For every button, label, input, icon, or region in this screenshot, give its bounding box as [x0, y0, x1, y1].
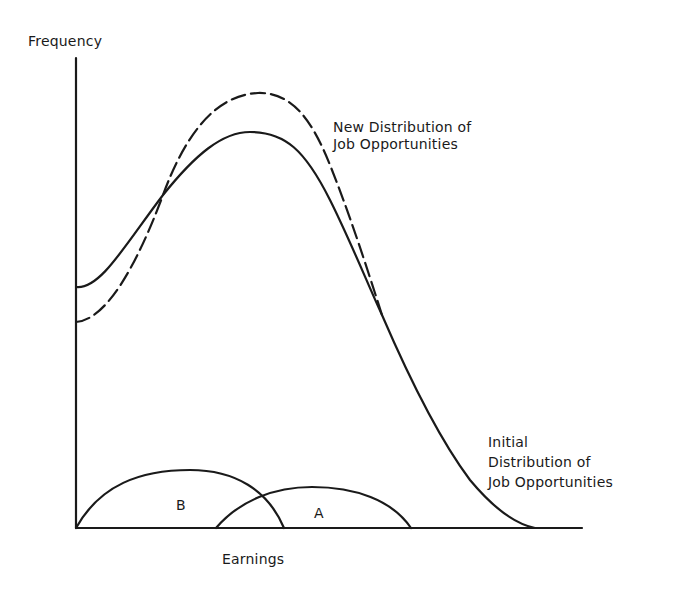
diagram-canvas [0, 0, 674, 597]
initial-distribution-label-line1: Initial [488, 432, 613, 452]
initial-distribution-label-line3: Job Opportunities [488, 472, 613, 492]
initial-distribution-label-line2: Distribution of [488, 452, 613, 472]
arc-b-label: B [176, 497, 186, 514]
initial-distribution-curve [76, 132, 535, 528]
new-distribution-label: New Distribution of Job Opportunities [333, 119, 471, 153]
arc-a-label: A [314, 505, 324, 522]
new-distribution-label-line2: Job Opportunities [333, 136, 471, 153]
new-distribution-label-line1: New Distribution of [333, 119, 471, 136]
x-axis-label: Earnings [222, 551, 284, 568]
y-axis-label: Frequency [28, 33, 102, 50]
distribution-diagram: Frequency Earnings New Distribution of J… [0, 0, 674, 597]
initial-distribution-label: Initial Distribution of Job Opportunitie… [488, 432, 613, 492]
